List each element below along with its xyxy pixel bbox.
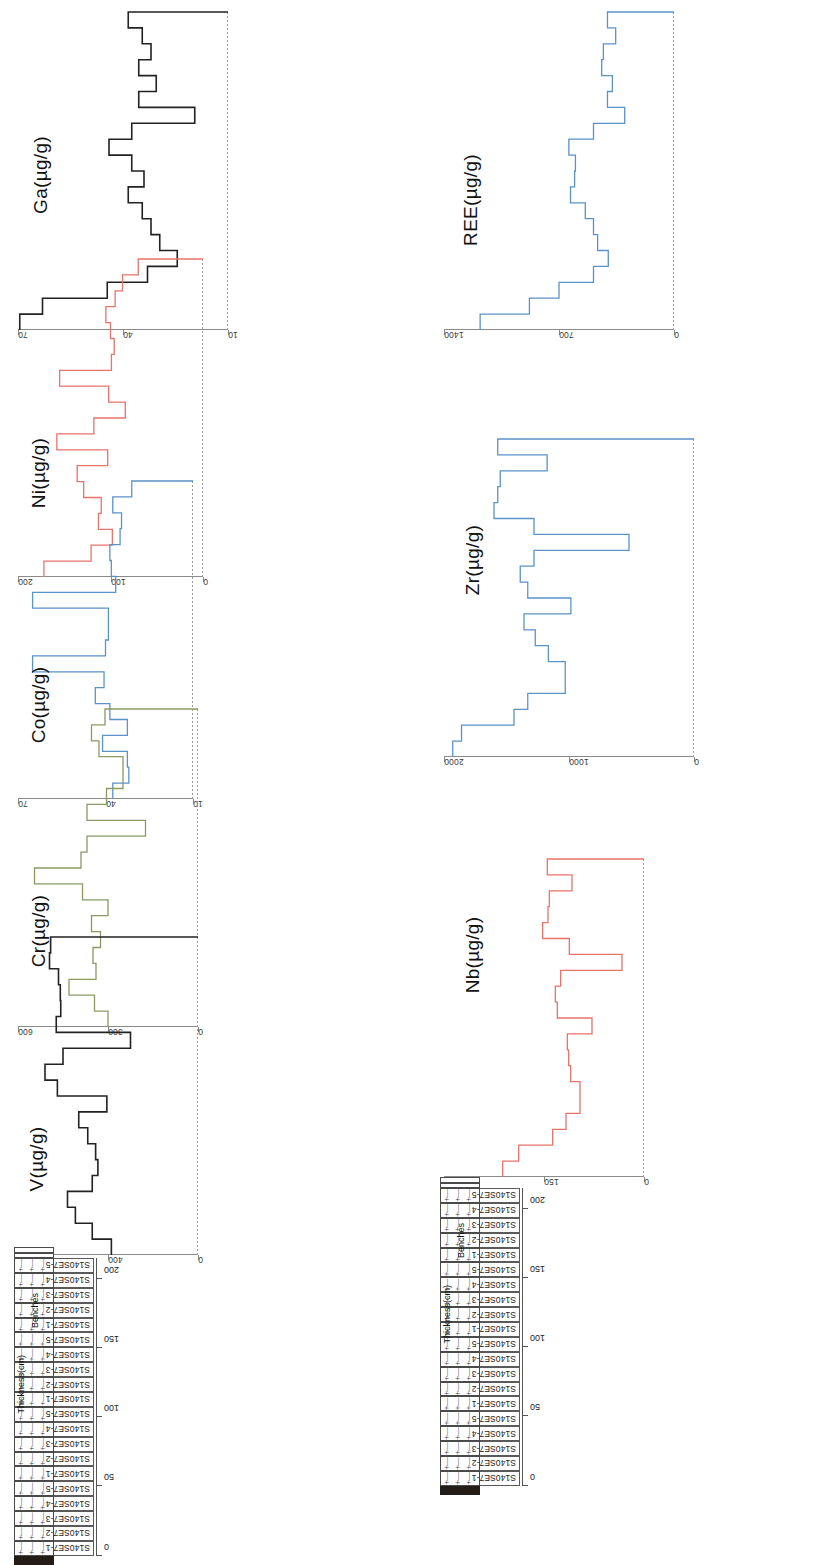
depth-tick-label: 0	[104, 1542, 109, 1552]
bench-symbol: —	[15, 1438, 24, 1447]
sample-cell[interactable]: S140SE7-1	[480, 1322, 520, 1337]
bench-symbol: —	[452, 1264, 461, 1273]
sample-cell[interactable]: S140SE7-2	[54, 1377, 94, 1392]
bench-symbol: —	[15, 1527, 24, 1536]
bench-symbol: —	[26, 1438, 35, 1447]
depth-tick-label: 200	[530, 1195, 545, 1205]
sample-label: S140SE7-4	[472, 1354, 516, 1364]
bench-symbol: —	[26, 1408, 35, 1417]
sample-cell[interactable]: S140SE7-5	[54, 1407, 94, 1422]
y-tick-label: 0	[203, 577, 208, 587]
sample-cell[interactable]: S140SE7-1	[480, 1396, 520, 1411]
stratigraphic-column: +—+—+—+—+—+—+—+—+—+—+—+—+—+—+—+—+—+—+—+—…	[418, 1195, 826, 1353]
sample-cell[interactable]: S140SE7-5	[480, 1188, 520, 1203]
step-path	[480, 12, 674, 330]
depth-tick	[96, 1278, 102, 1279]
bench-symbol: —	[26, 1259, 35, 1268]
bench-cell-dark[interactable]	[440, 1486, 480, 1495]
sample-cell[interactable]: S140SE7-1	[54, 1541, 94, 1556]
sample-label: S140SE7-4	[472, 1429, 516, 1439]
sample-label: S140SE7-3	[46, 1290, 90, 1300]
sample-label: S140SE7-2	[46, 1528, 90, 1538]
sample-label: S140SE7-4	[46, 1350, 90, 1360]
bench-symbol: —	[441, 1472, 450, 1481]
bench-symbol: —	[452, 1293, 461, 1302]
bench-symbol: —	[26, 1512, 35, 1521]
plot-area-v: 0400800	[18, 937, 198, 1255]
sample-cell[interactable]: S140SE7-3	[480, 1367, 520, 1382]
sample-cell[interactable]: S140SE7-5	[54, 1481, 94, 1496]
axis-title-v: V(µg/g)	[26, 1127, 48, 1192]
sample-cell[interactable]: S140SE7-2	[54, 1303, 94, 1318]
panel-ree: 07001400REE(µg/g)	[418, 0, 826, 345]
bench-symbol: —	[15, 1497, 24, 1506]
step-path	[503, 859, 644, 1177]
y-tick-label: 2000	[444, 757, 464, 767]
sample-cell[interactable]: S140SE7-3	[480, 1292, 520, 1307]
sample-cell[interactable]: S140SE7-4	[480, 1352, 520, 1367]
sample-cell[interactable]: S140SE7-1	[54, 1466, 94, 1481]
sample-cell[interactable]: S140SE7-3	[54, 1511, 94, 1526]
bench-cell-blank[interactable]	[14, 1247, 54, 1252]
sample-cell[interactable]: S140SE7-5	[480, 1411, 520, 1426]
sample-cell[interactable]: S140SE7-2	[54, 1452, 94, 1467]
bench-cell-dark[interactable]	[14, 1556, 54, 1565]
sample-label: S140SE7-3	[472, 1220, 516, 1230]
bench-symbol: —	[441, 1457, 450, 1466]
sample-cell[interactable]: S140SE7-4	[54, 1422, 94, 1437]
bench-symbol: —	[452, 1457, 461, 1466]
bench-cell-blank[interactable]	[440, 1183, 480, 1188]
sample-cell[interactable]: S140SE7-4	[54, 1273, 94, 1288]
depth-tick	[96, 1555, 102, 1556]
sample-cell[interactable]: S140SE7-3	[480, 1441, 520, 1456]
sample-cell[interactable]: S140SE7-4	[480, 1203, 520, 1218]
bench-symbol: —	[26, 1482, 35, 1491]
sample-cell[interactable]: S140SE7-5	[54, 1332, 94, 1347]
sample-cell[interactable]: S140SE7-5	[480, 1337, 520, 1352]
bench-symbol: —	[26, 1274, 35, 1283]
bench-symbol: —	[15, 1289, 24, 1298]
sample-cell[interactable]: S140SE7-1	[54, 1318, 94, 1333]
sample-cell[interactable]: S140SE7-4	[54, 1496, 94, 1511]
sample-cell[interactable]: S140SE7-3	[480, 1218, 520, 1233]
depth-tick-label: 50	[104, 1473, 114, 1483]
bench-cell-blank[interactable]	[440, 1177, 480, 1182]
sample-cell[interactable]: S140SE7-2	[480, 1382, 520, 1397]
bench-symbol: —	[441, 1442, 450, 1451]
sample-cell[interactable]: S140SE7-2	[54, 1526, 94, 1541]
sample-cell[interactable]: S140SE7-1	[480, 1248, 520, 1263]
sample-label: S140SE7-4	[472, 1205, 516, 1215]
y-tick-label: 400	[108, 1255, 123, 1265]
sample-cell[interactable]: S140SE7-4	[480, 1277, 520, 1292]
bench-symbol: —	[452, 1368, 461, 1377]
bench-symbol: —	[15, 1259, 24, 1268]
sample-label: S140SE7-1	[472, 1250, 516, 1260]
sample-cell[interactable]: S140SE7-2	[480, 1233, 520, 1248]
bench-symbol: —	[441, 1383, 450, 1392]
axis-title-nb: Nb(µg/g)	[462, 917, 484, 994]
sample-cell[interactable]: S140SE7-3	[54, 1288, 94, 1303]
y-tick-label: 1000	[569, 757, 589, 767]
sample-cell[interactable]: S140SE7-5	[54, 1258, 94, 1273]
sample-cell[interactable]: S140SE7-4	[54, 1347, 94, 1362]
y-tick-label: 1400	[444, 330, 464, 340]
bench-symbol: —	[452, 1189, 461, 1198]
sample-cell[interactable]: S140SE7-3	[54, 1362, 94, 1377]
sample-label: S140SE7-3	[46, 1514, 90, 1524]
sample-cell[interactable]: S140SE7-2	[480, 1456, 520, 1471]
bench-symbol: —	[441, 1204, 450, 1213]
sample-cell[interactable]: S140SE7-1	[480, 1471, 520, 1486]
sample-cell[interactable]: S140SE7-2	[480, 1307, 520, 1322]
sample-cell[interactable]: S140SE7-1	[54, 1392, 94, 1407]
sample-label: S140SE7-1	[472, 1324, 516, 1334]
y-tick-label: 0	[694, 757, 699, 767]
step-series-v	[18, 937, 198, 1255]
bench-symbol: —	[15, 1304, 24, 1313]
axis-title-ree: REE(µg/g)	[460, 154, 482, 246]
sample-cell[interactable]: S140SE7-3	[54, 1437, 94, 1452]
sample-cell[interactable]: S140SE7-5	[480, 1262, 520, 1277]
sample-cell[interactable]: S140SE7-4	[480, 1426, 520, 1441]
depth-axis-line	[522, 1188, 523, 1486]
bench-cell-blank[interactable]	[14, 1253, 54, 1258]
